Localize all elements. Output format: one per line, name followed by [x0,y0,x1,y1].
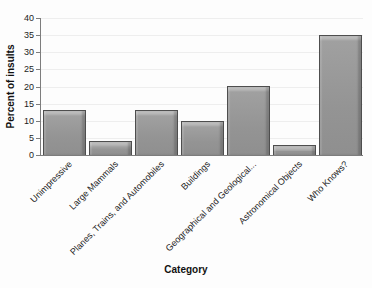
y-axis-tick [36,69,40,70]
bar [181,121,224,155]
gridline [41,69,363,70]
bar [43,110,86,155]
bar [319,35,362,155]
y-tick-label: 20 [12,83,34,92]
y-tick-label: 10 [12,117,34,126]
gridline [41,104,363,105]
y-tick-label: 5 [12,134,34,143]
y-axis-tick [36,155,40,156]
y-axis-tick [36,87,40,88]
insults-bar-chart: Percent of insults Category 051015202530… [0,0,372,288]
y-axis-tick [36,138,40,139]
plot-area [40,18,363,156]
bar [135,110,178,155]
y-tick-label: 25 [12,65,34,74]
y-axis-tick [36,104,40,105]
y-axis-tick [36,18,40,19]
bar [273,145,316,155]
gridline [41,35,363,36]
y-tick-label: 0 [12,151,34,160]
gridline [41,18,363,19]
gridline [41,52,363,53]
y-axis-tick [36,121,40,122]
bar [89,141,132,155]
y-tick-label: 35 [12,31,34,40]
y-axis-tick [36,52,40,53]
gridline [41,87,363,88]
bar [227,86,270,155]
y-axis-tick [36,35,40,36]
y-tick-label: 30 [12,48,34,57]
y-tick-label: 40 [12,14,34,23]
y-tick-label: 15 [12,100,34,109]
